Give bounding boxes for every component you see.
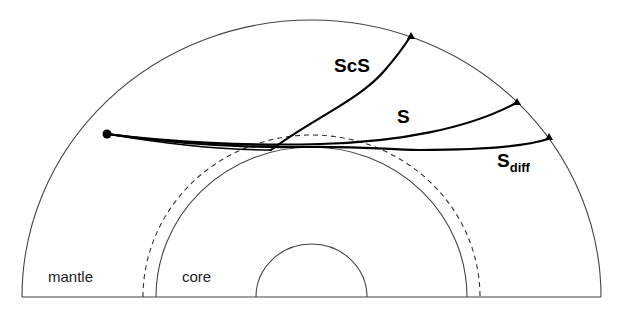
earth-cross-section: ScS S Sdiff mantle core: [0, 0, 619, 314]
label-scs: ScS: [334, 55, 370, 76]
source-marker-icon: [103, 130, 112, 139]
label-sdiff-subscript: diff: [510, 160, 531, 175]
label-s: S: [397, 106, 410, 127]
label-sdiff: Sdiff: [497, 150, 531, 175]
ray-scs-up: [271, 37, 410, 150]
ray-path-diagram: ScS S Sdiff mantle core: [0, 0, 619, 314]
inner-core-boundary: [256, 244, 367, 297]
label-core: core: [182, 268, 211, 285]
ray-sdiff: [107, 134, 548, 150]
surface-boundary: [22, 20, 601, 297]
label-sdiff-main: S: [497, 150, 510, 171]
label-mantle: mantle: [48, 268, 93, 285]
